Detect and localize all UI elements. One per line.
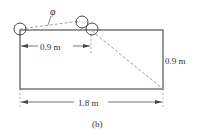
arrow-right-icon — [83, 44, 90, 48]
rope-segment-dashed — [20, 21, 80, 29]
arrow-right-icon — [155, 100, 162, 104]
circle-right — [86, 23, 98, 35]
diagram-canvas: φ 0.9 m 0.9 m 1.8 m (b) — [0, 0, 205, 137]
phi-label: φ — [50, 6, 56, 17]
bottom-dimension-label: 1.8 m — [78, 98, 99, 108]
top-dimension-label: 0.9 m — [40, 42, 61, 52]
arrow-left-icon — [21, 100, 28, 104]
rectangle-body — [20, 30, 163, 89]
phi-leader — [48, 16, 51, 25]
figure-caption: (b) — [92, 119, 103, 129]
right-dimension-label: 0.9 m — [165, 56, 186, 66]
diagonal-dashed — [92, 31, 163, 89]
arrow-left-icon — [21, 44, 28, 48]
